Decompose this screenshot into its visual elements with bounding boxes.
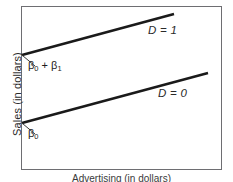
annotation-d-equals-0: D = 0 <box>158 87 187 99</box>
y-axis-label: Sales (in dollars) <box>11 34 23 154</box>
beta-subscript-0: 0 <box>34 64 38 73</box>
regression-dummy-variable-figure: D = 1 D = 0 β0 + β1 β0 Sales (in dollars… <box>0 0 233 182</box>
plus-operator: + <box>39 59 52 71</box>
plot-frame <box>21 6 222 170</box>
annotation-beta0-plus-beta1: β0 + β1 <box>28 59 62 71</box>
annotation-beta0: β0 <box>28 127 39 139</box>
x-axis-label: Advertising (in dollars) <box>21 173 222 182</box>
beta-subscript-0: 0 <box>34 132 38 141</box>
annotation-d-equals-1: D = 1 <box>148 24 177 36</box>
beta-subscript-1: 1 <box>57 64 61 73</box>
